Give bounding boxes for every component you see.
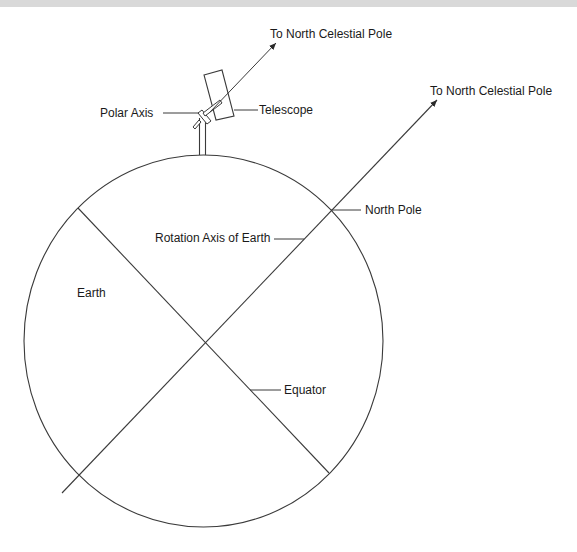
rotation-axis-line: [62, 100, 437, 493]
label-earth: Earth: [77, 286, 106, 300]
label-celestial-pole-right: To North Celestial Pole: [430, 84, 552, 98]
label-telescope: Telescope: [259, 103, 313, 117]
label-equator: Equator: [284, 383, 326, 397]
equator-line: [78, 208, 329, 473]
label-north-pole: North Pole: [365, 203, 422, 217]
label-celestial-pole-top: To North Celestial Pole: [270, 27, 392, 41]
label-rotation-axis: Rotation Axis of Earth: [155, 231, 270, 245]
earth-telescope-diagram: [0, 0, 577, 552]
label-polar-axis: Polar Axis: [100, 106, 153, 120]
